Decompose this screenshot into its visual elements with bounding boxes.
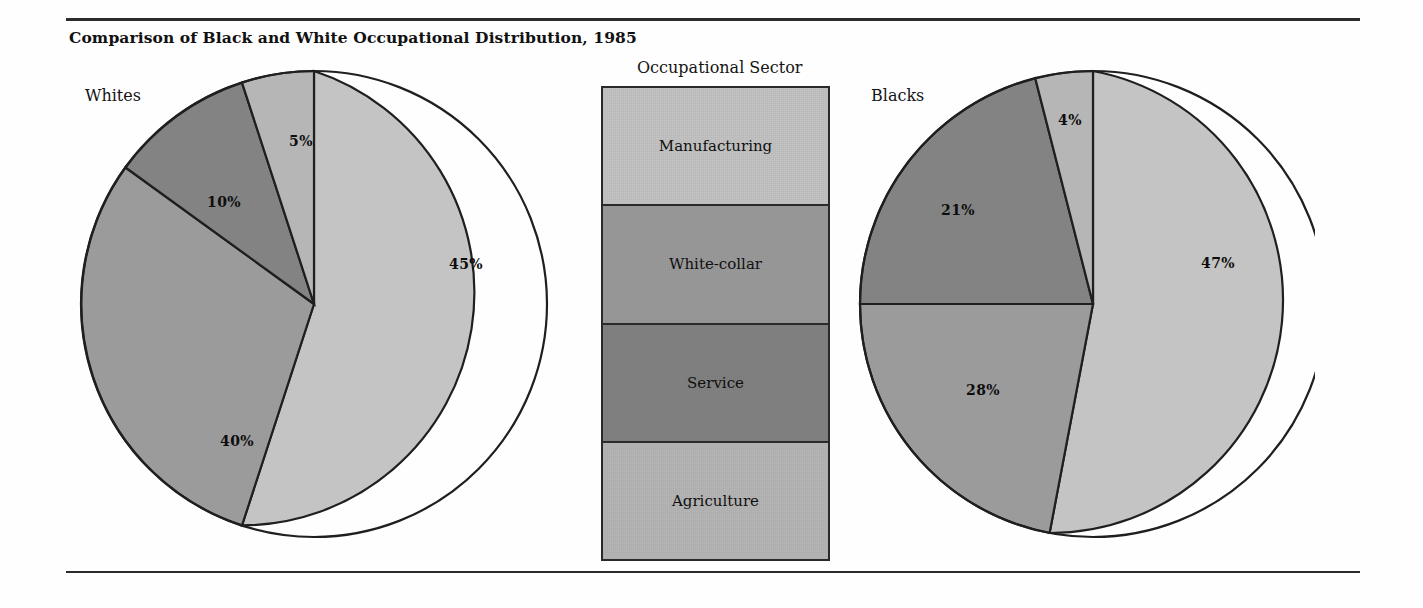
pie-blacks-caption: Blacks [871, 86, 924, 105]
pie-blacks-label-service: 21% [941, 202, 975, 218]
legend-item-agriculture-label: Agriculture [672, 492, 759, 510]
legend-item-service-label: Service [687, 374, 744, 392]
bottom-rule [66, 571, 1360, 573]
pie-whites-label-manufacturing: 45% [449, 256, 483, 272]
pie-whites-label-white-collar: 40% [220, 433, 254, 449]
pie-whites-svg [79, 52, 549, 562]
pie-blacks-label-white-collar: 28% [966, 382, 1000, 398]
top-rule [66, 18, 1360, 21]
legend-item-service[interactable]: Service [603, 325, 828, 443]
pie-blacks-label-agriculture: 4% [1058, 112, 1082, 128]
legend: Manufacturing White-collar Service Agric… [601, 86, 830, 561]
pie-whites-caption: Whites [85, 86, 141, 105]
pie-chart-blacks: Blacks 47% 28% 21% 4% [855, 52, 1315, 562]
legend-title: Occupational Sector [637, 58, 802, 77]
pie-blacks-label-manufacturing: 47% [1201, 255, 1235, 271]
legend-item-manufacturing-label: Manufacturing [659, 137, 772, 155]
pie-whites-label-service: 10% [207, 194, 241, 210]
legend-item-agriculture[interactable]: Agriculture [603, 443, 828, 559]
page-title: Comparison of Black and White Occupation… [69, 28, 637, 47]
pie-chart-whites: Whites 45% 40% 10% 5% [79, 52, 549, 562]
figure-root: Comparison of Black and White Occupation… [0, 0, 1423, 608]
legend-item-white-collar-label: White-collar [669, 255, 762, 273]
legend-item-manufacturing[interactable]: Manufacturing [603, 88, 828, 206]
legend-item-white-collar[interactable]: White-collar [603, 206, 828, 324]
pie-whites-label-agriculture: 5% [289, 133, 313, 149]
pie-blacks-svg [855, 52, 1315, 562]
